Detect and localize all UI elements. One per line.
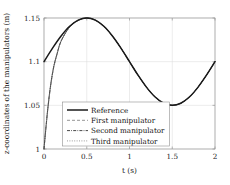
legend-label: Third manipulator xyxy=(91,137,158,146)
x-tick-label: 2 xyxy=(213,152,218,161)
y-axis-label: z-coordinates of the manipulators (m) xyxy=(2,13,11,154)
x-tick-label: 1.5 xyxy=(167,152,179,161)
y-tick-label: 1.15 xyxy=(24,14,40,23)
x-tick-label: 0 xyxy=(42,152,47,161)
x-tick-label: 0.5 xyxy=(81,152,93,161)
y-tick-label: 1 xyxy=(35,145,40,154)
chart-canvas: 00.511.52 11.051.11.15 t (s) z-coordinat… xyxy=(0,0,230,185)
x-tick-labels: 00.511.52 xyxy=(42,152,218,161)
legend: ReferenceFirst manipulatorSecond manipul… xyxy=(63,102,170,146)
x-axis-label: t (s) xyxy=(122,166,137,175)
figure-container: 00.511.52 11.051.11.15 t (s) z-coordinat… xyxy=(0,0,230,185)
y-tick-label: 1.05 xyxy=(24,101,40,110)
legend-label: Second manipulator xyxy=(91,126,165,135)
y-tick-labels: 11.051.11.15 xyxy=(24,14,40,154)
legend-label: Reference xyxy=(91,106,128,115)
x-tick-label: 1 xyxy=(127,152,132,161)
y-tick-label: 1.1 xyxy=(29,57,40,66)
legend-label: First manipulator xyxy=(91,116,156,125)
